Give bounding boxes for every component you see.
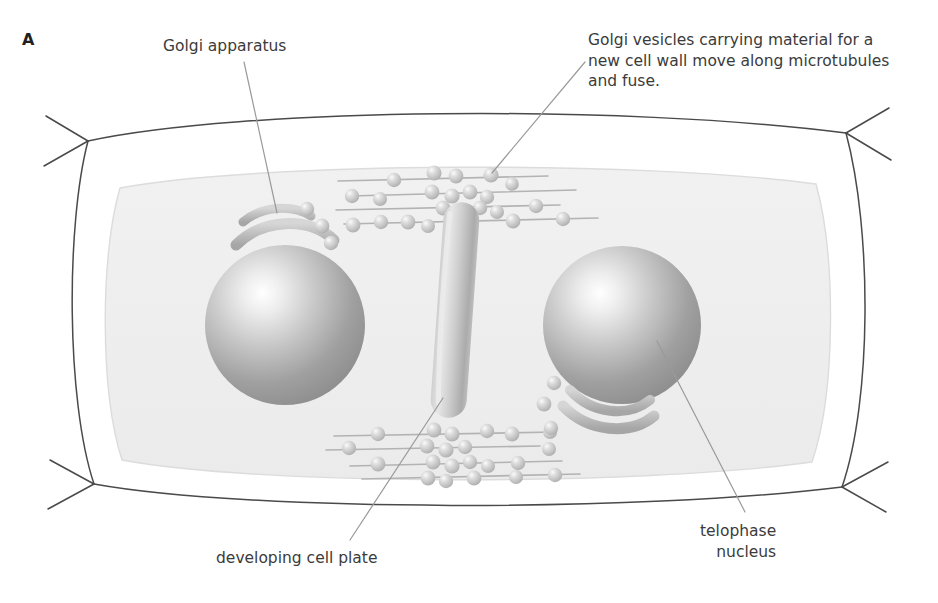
- panel-letter: A: [22, 30, 35, 49]
- label-golgi-apparatus: Golgi apparatus: [163, 36, 286, 57]
- label-telophase-nucleus: telophase nucleus: [700, 521, 776, 562]
- left-telophase-nucleus: [205, 245, 365, 405]
- label-golgi-vesicles: Golgi vesicles carrying material for a n…: [588, 30, 889, 92]
- leader-golgi-vesicles: [492, 62, 585, 173]
- label-developing-cell-plate: developing cell plate: [216, 548, 377, 569]
- figure-panel: A Golgi apparatus Golgi vesicles carryin…: [0, 0, 938, 603]
